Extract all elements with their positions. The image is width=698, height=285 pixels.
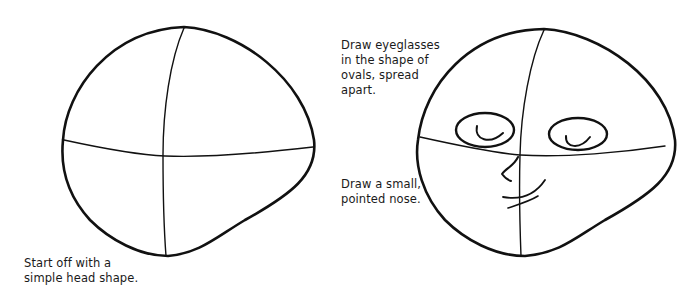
vertical-guideline (520, 30, 544, 256)
caption-line: Start off with a (24, 256, 138, 271)
left-closed-eye (477, 126, 503, 140)
caption-line: Draw a small, (341, 177, 421, 192)
nose (502, 157, 518, 181)
left-glasses-oval (456, 113, 514, 147)
right-closed-eye (566, 136, 590, 146)
caption-nose: Draw a small, pointed nose. (341, 177, 421, 207)
horizontal-guideline (420, 137, 665, 156)
caption-line: simple head shape. (24, 271, 138, 285)
caption-line: apart. (341, 83, 440, 98)
caption-line: pointed nose. (341, 192, 421, 207)
horizontal-guideline (64, 140, 313, 156)
caption-eyeglasses: Draw eyeglasses in the shape of ovals, s… (341, 38, 440, 98)
mouth (503, 180, 545, 198)
caption-start-head-shape: Start off with a simple head shape. (24, 256, 138, 285)
caption-line: ovals, spread (341, 68, 440, 83)
vertical-guideline (163, 28, 184, 256)
caption-line: Draw eyeglasses (341, 38, 440, 53)
head-outline-step-2 (417, 29, 675, 256)
caption-line: in the shape of (341, 53, 440, 68)
head-outline-step-1 (62, 27, 314, 256)
